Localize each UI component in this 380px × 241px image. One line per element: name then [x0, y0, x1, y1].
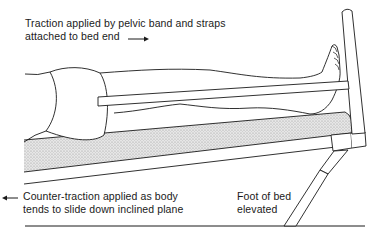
- foot-of-bed-label: Foot of bed elevated: [237, 190, 291, 215]
- traction-label: Traction applied by pelvic band and stra…: [25, 17, 226, 42]
- traction-diagram: Traction applied by pelvic band and stra…: [0, 0, 380, 241]
- counter-traction-label: Counter-traction applied as body tends t…: [23, 190, 183, 215]
- counter-traction-label-line-1: Counter-traction applied as body: [23, 190, 183, 203]
- counter-traction-label-line-2: tends to slide down inclined plane: [23, 203, 183, 216]
- bed-leg-support: [320, 150, 348, 174]
- bed-frame-end-block: [331, 133, 352, 151]
- traction-label-line-1: Traction applied by pelvic band and stra…: [25, 17, 226, 30]
- foot-of-bed-label-line-2: elevated: [237, 203, 291, 216]
- left-arrow-icon: [2, 196, 7, 201]
- foot-of-bed-label-line-1: Foot of bed: [237, 190, 291, 203]
- traction-label-line-2: attached to bed end: [25, 30, 226, 43]
